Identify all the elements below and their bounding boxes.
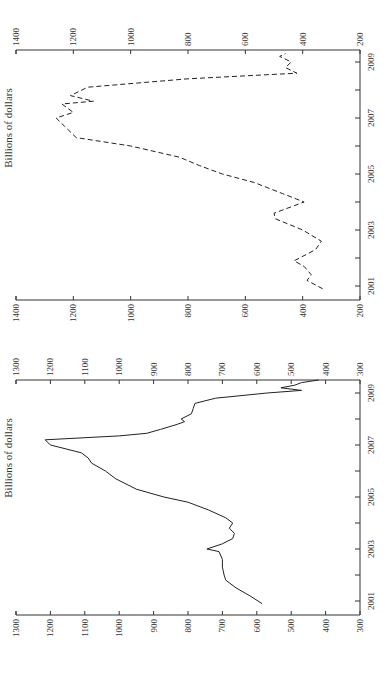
year-tick-label: 2003 <box>366 221 376 240</box>
value-tick-label-top: 700 <box>217 362 227 376</box>
chart-top-axes: 2002004004006006008008001000100012001200… <box>11 28 376 323</box>
value-tick-label-bottom: 300 <box>355 619 365 633</box>
value-tick-label-top: 900 <box>149 362 159 376</box>
value-tick-label-bottom: 600 <box>240 304 250 318</box>
value-tick-label-bottom: 400 <box>321 619 331 633</box>
year-tick-label: 2007 <box>366 436 376 455</box>
chart-top-ylabel: Billions of dollars <box>2 88 14 167</box>
value-tick-label-bottom: 1000 <box>126 304 136 323</box>
year-tick-label: 2009 <box>366 384 376 403</box>
chart-top-dashed: 2002004004006006008008001000100012001200… <box>2 28 376 323</box>
year-tick-label: 2005 <box>366 488 376 507</box>
value-tick-label-top: 500 <box>286 362 296 376</box>
value-tick-label-top: 400 <box>298 32 308 46</box>
value-tick-label-top: 600 <box>252 362 262 376</box>
chart-bottom-axes: 3003004004005005006006007007008008009009… <box>11 358 376 638</box>
value-tick-label-top: 800 <box>183 362 193 376</box>
value-tick-label-top: 1000 <box>126 28 136 47</box>
value-tick-label-bottom: 700 <box>217 619 227 633</box>
value-tick-label-top: 200 <box>355 32 365 46</box>
value-tick-label-bottom: 400 <box>298 304 308 318</box>
value-tick-label-bottom: 1200 <box>45 619 55 638</box>
value-tick-label-bottom: 600 <box>252 619 262 633</box>
value-tick-label-top: 300 <box>355 362 365 376</box>
value-tick-label-bottom: 800 <box>183 619 193 633</box>
value-tick-label-top: 600 <box>240 32 250 46</box>
value-tick-label-top: 1000 <box>114 358 124 377</box>
year-tick-label: 2003 <box>366 540 376 559</box>
year-tick-label: 2009 <box>366 53 376 72</box>
chart-bottom-solid: 3003004004005005006006007007008008009009… <box>2 358 376 638</box>
year-tick-label: 2005 <box>366 165 376 184</box>
value-tick-label-bottom: 500 <box>286 619 296 633</box>
chart-bottom-data-line <box>45 380 319 604</box>
value-tick-label-top: 1200 <box>45 358 55 377</box>
value-tick-label-bottom: 800 <box>183 304 193 318</box>
value-tick-label-top: 1100 <box>80 358 90 376</box>
year-tick-label: 2007 <box>366 109 376 128</box>
value-tick-label-top: 800 <box>183 32 193 46</box>
value-tick-label-bottom: 1000 <box>114 619 124 638</box>
value-tick-label-bottom: 1200 <box>68 304 78 323</box>
year-tick-label: 2001 <box>366 277 376 295</box>
figure-two-rotated-line-charts: 2002004004006006008008001000100012001200… <box>0 0 385 673</box>
chart-top-data-line <box>56 54 323 289</box>
value-tick-label-top: 400 <box>321 362 331 376</box>
value-tick-label-bottom: 200 <box>355 304 365 318</box>
value-tick-label-bottom: 1400 <box>11 304 21 323</box>
value-tick-label-top: 1400 <box>11 28 21 47</box>
value-tick-label-top: 1300 <box>11 358 21 377</box>
year-tick-label: 2001 <box>366 592 376 610</box>
value-tick-label-top: 1200 <box>68 28 78 47</box>
chart-bottom-ylabel: Billions of dollars <box>2 418 14 497</box>
value-tick-label-bottom: 900 <box>149 619 159 633</box>
value-tick-label-bottom: 1100 <box>80 619 90 637</box>
value-tick-label-bottom: 1300 <box>11 619 21 638</box>
